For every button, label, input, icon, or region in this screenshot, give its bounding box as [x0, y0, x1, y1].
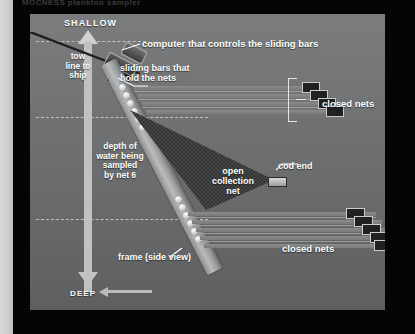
open-net-line3: net — [202, 186, 264, 196]
sliding-bars-label-line1: sliding bars that — [120, 63, 190, 73]
sliding-bars-label-line2: hold the nets — [120, 73, 190, 83]
open-net-line1: open — [202, 166, 264, 176]
page-edge-strip — [0, 0, 13, 334]
depth-sampled-line4: by net 6 — [82, 171, 158, 181]
closed-nets-label-lower: closed nets — [282, 244, 334, 255]
tow-line-label: tow line to ship — [54, 52, 102, 81]
computer-label: computer that controls the sliding bars — [142, 39, 318, 50]
depth-sampled-label: depth of water being sampled by net 6 — [82, 142, 158, 180]
deep-label: DEEP — [70, 290, 96, 299]
diagram-panel: SHALLOW DEEP tow line to ship computer t… — [30, 14, 385, 310]
shallow-label: SHALLOW — [64, 18, 117, 28]
open-collection-net-label: open collection net — [202, 166, 264, 196]
tow-direction-arrow-shaft — [108, 290, 152, 293]
tow-line-label-line3: ship — [54, 71, 102, 81]
open-net-line2: collection — [202, 176, 264, 186]
closed-nets-label-upper: closed nets — [322, 99, 374, 110]
frame-side-view-label: frame (side view) — [118, 252, 191, 262]
cut-off-caption: MOCNESS plankton sampler — [22, 0, 162, 8]
sliding-bars-label: sliding bars that hold the nets — [120, 63, 190, 83]
tow-direction-arrow-head-icon — [99, 287, 108, 297]
figure-screen: MOCNESS plankton sampler — [0, 0, 415, 334]
cod-end-label: cod end — [278, 161, 313, 171]
